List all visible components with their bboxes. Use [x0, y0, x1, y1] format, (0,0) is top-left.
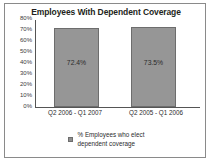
- x-axis: Q2 2006 - Q1 2007 Q2 2005 - Q1 2006: [35, 109, 203, 120]
- y-axis-tick-label: 20%: [20, 81, 32, 87]
- chart-legend: % Employees who elect dependent coverage: [5, 131, 207, 148]
- bar-series-0-category-1[interactable]: [131, 27, 176, 107]
- y-axis: 80% 70% 60% 50% 40% 30% 20% 10% 0%: [5, 15, 33, 109]
- x-axis-category-label: Q2 2006 - Q1 2007: [34, 109, 116, 116]
- bar-group: 72.4%: [54, 20, 99, 107]
- legend-label-line-1: % Employees who elect: [78, 131, 145, 140]
- plot-area: 72.4% 73.5%: [35, 20, 200, 108]
- bar-value-label: 72.4%: [54, 59, 99, 66]
- y-axis-tick-label: 60%: [20, 37, 32, 43]
- bar-series-0-category-0[interactable]: [54, 28, 99, 107]
- bar-group: 73.5%: [131, 20, 176, 107]
- legend-entry-label: % Employees who elect dependent coverage: [78, 131, 145, 148]
- y-axis-tick-label: 70%: [20, 26, 32, 32]
- y-axis-tick-label: 0%: [23, 103, 32, 109]
- y-axis-tick-label: 30%: [20, 70, 32, 76]
- legend-label-line-2: dependent coverage: [78, 140, 145, 149]
- chart-title: Employees With Dependent Coverage: [5, 7, 207, 17]
- x-axis-category-label: Q2 2005 - Q1 2006: [115, 109, 197, 116]
- bar-value-label: 73.5%: [131, 59, 176, 66]
- chart-container: Employees With Dependent Coverage 80% 70…: [4, 3, 206, 158]
- y-axis-tick-label: 80%: [20, 15, 32, 21]
- y-axis-tick-label: 40%: [20, 59, 32, 65]
- y-axis-tick-label: 50%: [20, 48, 32, 54]
- y-axis-tick-label: 10%: [20, 92, 32, 98]
- legend-square-marker-icon: [68, 137, 73, 142]
